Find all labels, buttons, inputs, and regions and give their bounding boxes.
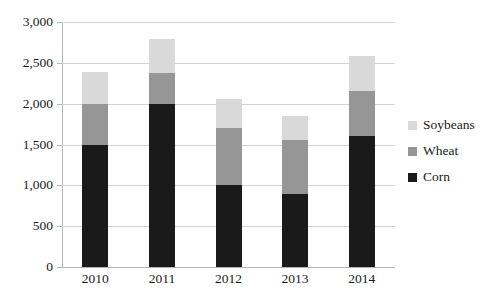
legend-item-corn[interactable]: Corn [408,164,496,190]
y-tick-label-0: 0 [7,260,53,274]
y-tick-label-1000: 1,000 [7,178,53,192]
y-tick-mark-2000 [57,104,62,105]
bar-segment-corn-2012[interactable] [216,185,242,267]
chart-legend: SoybeansWheatCorn [408,112,496,190]
legend-swatch-soybeans-icon [408,121,417,130]
bar-group-2010[interactable] [82,22,108,267]
y-tick-mark-500 [57,226,62,227]
x-tick-label-2011: 2011 [129,272,195,286]
y-tick-label-500: 500 [7,219,53,233]
bar-segment-wheat-2014[interactable] [349,91,375,136]
legend-swatch-corn-icon [408,173,417,182]
bar-segment-soybeans-2012[interactable] [216,99,242,128]
legend-item-soybeans[interactable]: Soybeans [408,112,496,138]
y-tick-mark-2500 [57,63,62,64]
bar-segment-wheat-2011[interactable] [149,73,175,103]
bar-segment-wheat-2013[interactable] [282,140,308,193]
y-tick-mark-0 [57,267,62,268]
bar-segment-corn-2013[interactable] [282,194,308,268]
bar-segment-soybeans-2013[interactable] [282,116,308,141]
y-tick-mark-1000 [57,185,62,186]
bar-segment-wheat-2012[interactable] [216,128,242,185]
stacked-bar-chart: 05001,0001,5002,0002,5003,000 2010201120… [0,0,498,300]
bar-group-2014[interactable] [349,22,375,267]
legend-item-wheat[interactable]: Wheat [408,138,496,164]
bar-segment-soybeans-2010[interactable] [82,72,108,104]
bar-segment-corn-2014[interactable] [349,136,375,267]
gridline-0 [62,267,395,268]
legend-swatch-wheat-icon [408,147,417,156]
bar-segment-corn-2010[interactable] [82,145,108,268]
legend-label-wheat: Wheat [423,144,458,158]
legend-label-corn: Corn [423,170,450,184]
y-tick-mark-3000 [57,22,62,23]
y-tick-label-2500: 2,500 [7,56,53,70]
bar-segment-soybeans-2014[interactable] [349,56,375,92]
x-tick-label-2013: 2013 [262,272,328,286]
bar-group-2011[interactable] [149,22,175,267]
bar-segment-corn-2011[interactable] [149,104,175,267]
bar-group-2013[interactable] [282,22,308,267]
y-tick-label-2000: 2,000 [7,97,53,111]
bar-segment-soybeans-2011[interactable] [149,39,175,73]
y-tick-mark-1500 [57,145,62,146]
y-tick-label-3000: 3,000 [7,15,53,29]
plot-area [62,22,395,267]
legend-label-soybeans: Soybeans [423,118,475,132]
bar-group-2012[interactable] [216,22,242,267]
bar-segment-wheat-2010[interactable] [82,104,108,145]
x-tick-label-2010: 2010 [62,272,128,286]
x-tick-label-2012: 2012 [196,272,262,286]
x-tick-label-2014: 2014 [329,272,395,286]
y-tick-label-1500: 1,500 [7,138,53,152]
y-axis-labels: 05001,0001,5002,0002,5003,000 [0,0,53,300]
